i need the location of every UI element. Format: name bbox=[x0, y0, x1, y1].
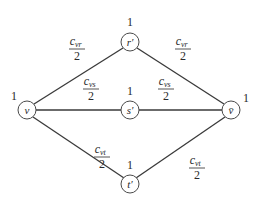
edge-label-subscript: vr bbox=[181, 40, 189, 49]
edge-label-t-prime-v-bar: c vt 2 bbox=[189, 153, 205, 182]
edge-label-denominator: 2 bbox=[194, 168, 200, 182]
node-s-prime-label: s′ bbox=[127, 104, 134, 116]
node-t-prime-label: t′ bbox=[127, 178, 133, 190]
edge-v-t-prime bbox=[33, 117, 124, 178]
edge-label-s-prime-v-bar: c vs 2 bbox=[158, 74, 174, 103]
edge-label-denominator: 2 bbox=[163, 89, 169, 103]
node-v: v 1 bbox=[11, 89, 36, 119]
node-s-prime-weight: 1 bbox=[127, 84, 133, 98]
node-v-bar-label: v̄ bbox=[229, 104, 234, 116]
edge-label-subscript: vr bbox=[75, 40, 83, 49]
edge-label-subscript: vt bbox=[195, 159, 202, 168]
node-v-label: v bbox=[25, 104, 30, 116]
node-v-weight: 1 bbox=[11, 89, 17, 103]
edge-label-subscript: vs bbox=[164, 80, 171, 89]
node-v-bar: v̄ 1 bbox=[222, 91, 249, 119]
node-r-prime-weight: 1 bbox=[127, 15, 133, 29]
edge-label-subscript: vt bbox=[100, 148, 107, 157]
node-r-prime: r′ 1 bbox=[121, 15, 139, 51]
edge-label-denominator: 2 bbox=[180, 49, 186, 63]
node-v-bar-weight: 1 bbox=[243, 91, 249, 105]
node-s-prime: s′ 1 bbox=[121, 84, 139, 119]
edge-label-v-r-prime: c vr 2 bbox=[69, 34, 85, 63]
edge-label-denominator: 2 bbox=[88, 89, 94, 103]
edge-label-subscript: vs bbox=[89, 80, 96, 89]
node-t-prime-weight: 1 bbox=[127, 158, 133, 172]
edge-label-v-s-prime: c vs 2 bbox=[83, 74, 99, 103]
edge-label-denominator: 2 bbox=[99, 157, 105, 171]
edge-label-r-prime-v-bar: c vr 2 bbox=[175, 34, 191, 63]
edge-t-prime-v-bar bbox=[136, 117, 225, 178]
node-t-prime: t′ 1 bbox=[121, 158, 139, 193]
graph-diagram: v 1 r′ 1 s′ 1 v̄ 1 t′ 1 c vr 2 c vr 2 c … bbox=[0, 0, 259, 221]
edge-label-denominator: 2 bbox=[74, 49, 80, 63]
node-r-prime-label: r′ bbox=[127, 36, 134, 48]
